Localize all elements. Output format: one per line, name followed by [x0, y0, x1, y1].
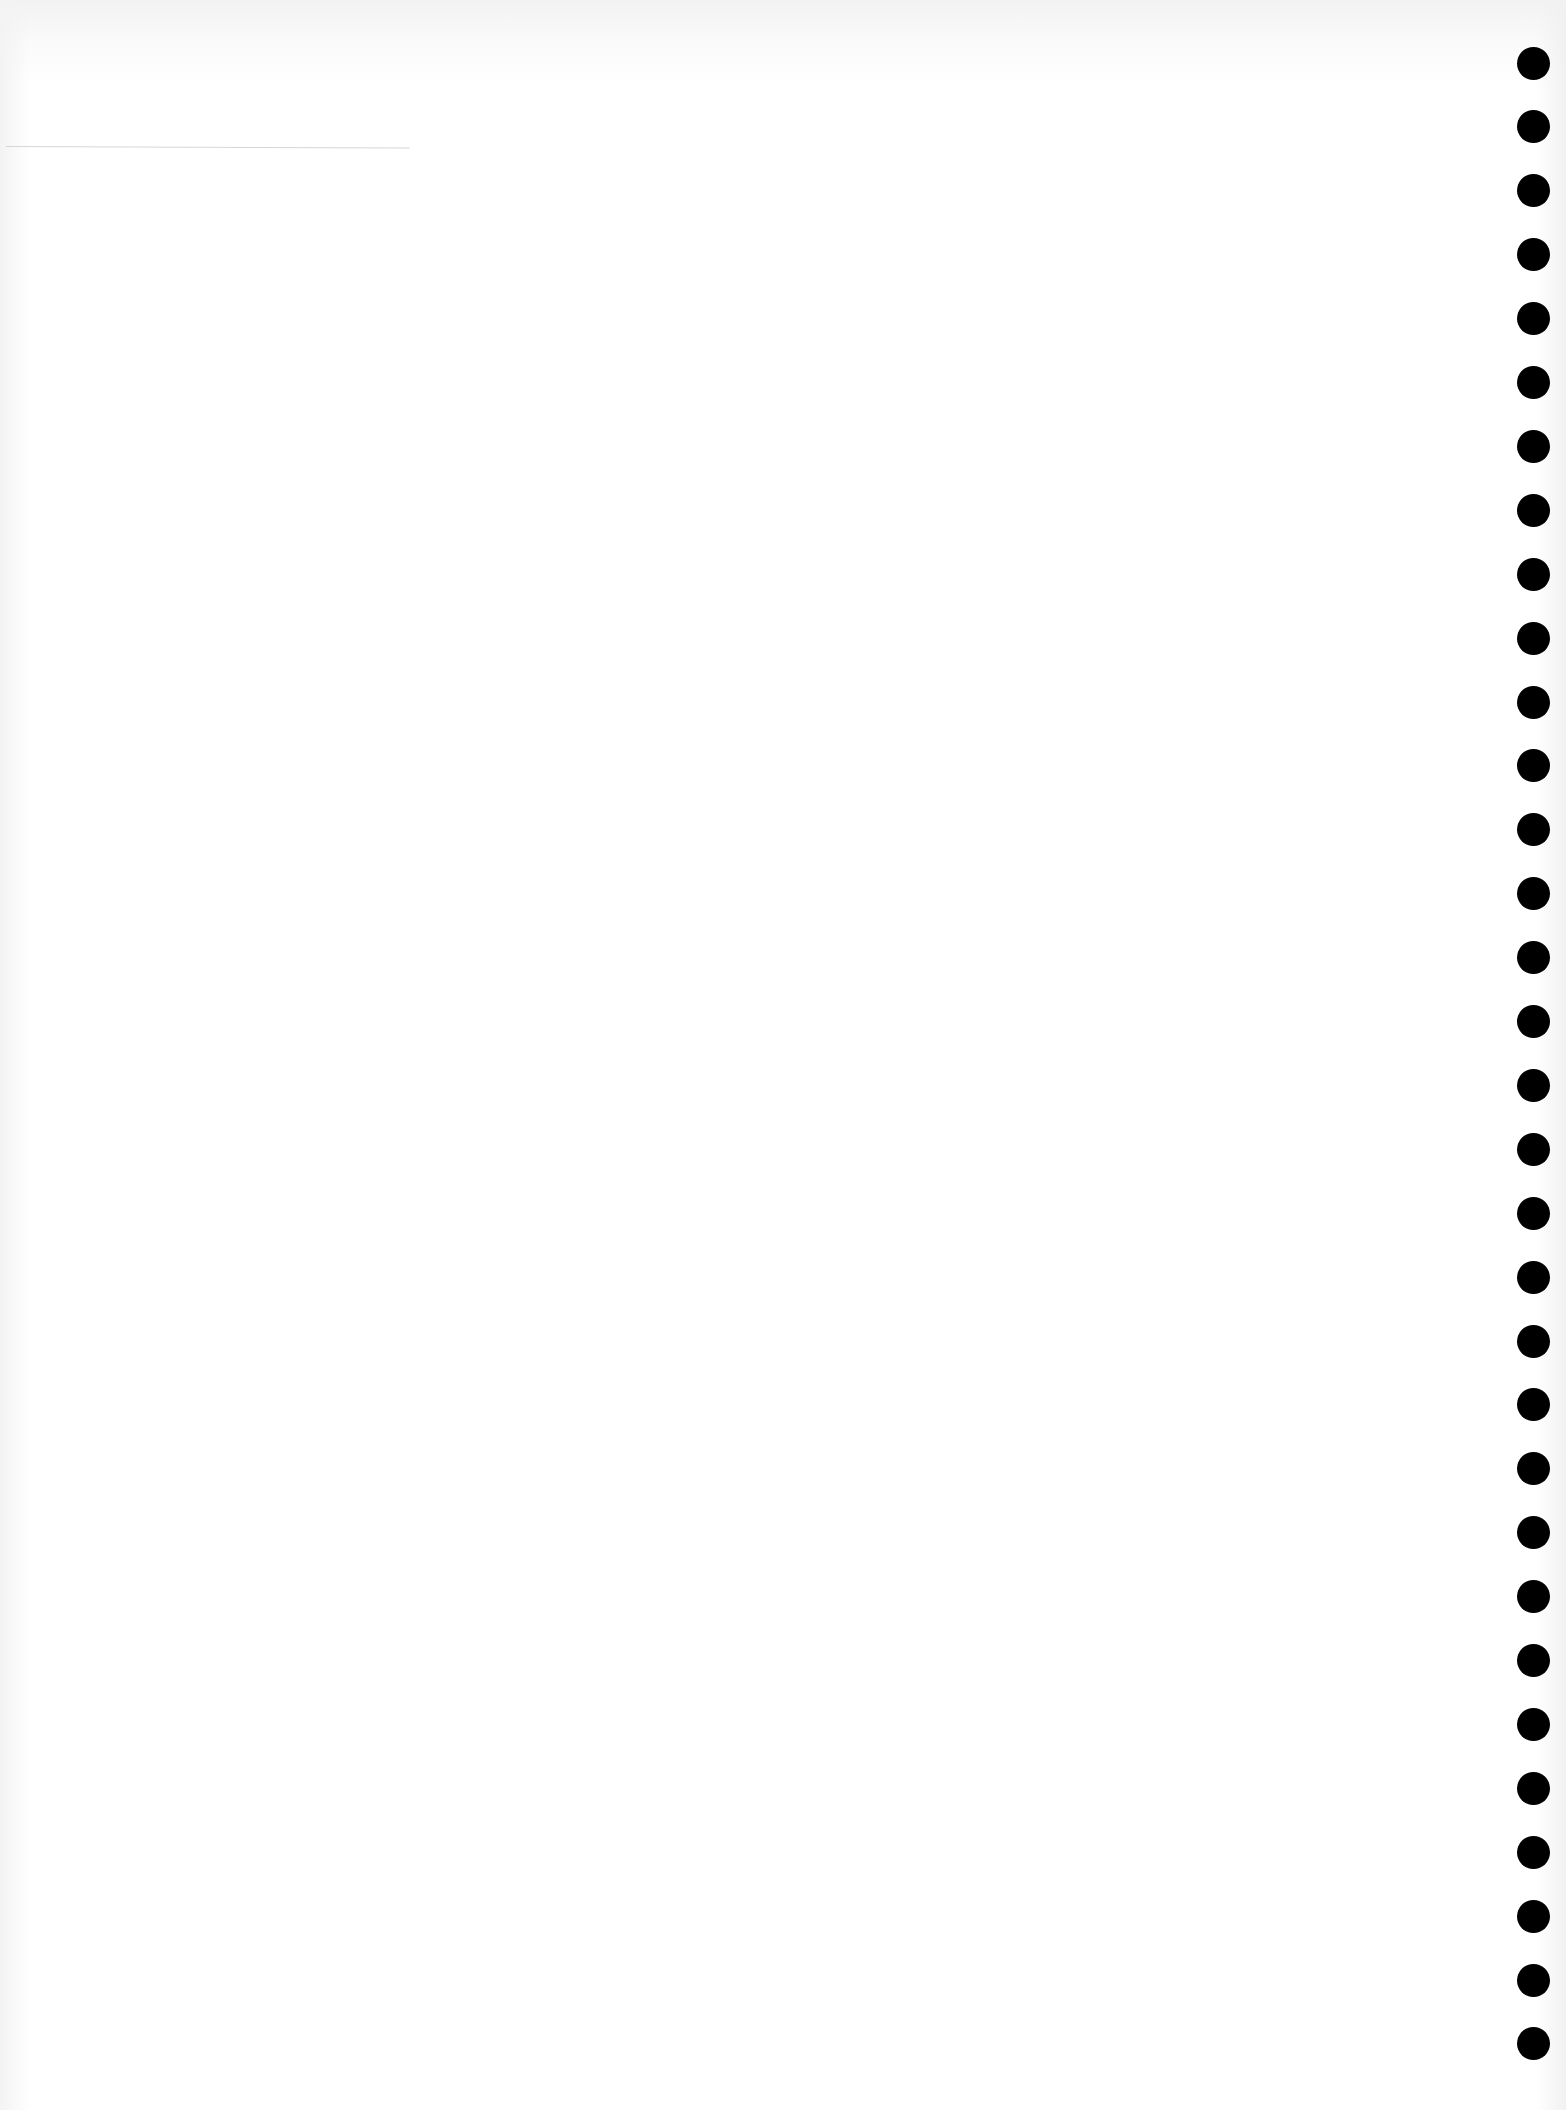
binder-hole [1517, 1197, 1550, 1230]
binder-hole [1517, 622, 1550, 655]
binder-hole [1517, 1580, 1550, 1613]
binder-hole [1517, 813, 1550, 846]
binder-hole [1517, 877, 1550, 910]
binder-hole [1517, 494, 1550, 527]
binder-hole [1517, 1261, 1550, 1294]
binder-hole [1517, 1836, 1550, 1869]
binder-hole [1517, 1325, 1550, 1358]
binder-hole [1517, 1069, 1550, 1102]
binder-hole [1517, 1388, 1550, 1421]
binder-hole [1517, 366, 1550, 399]
binder-hole [1517, 558, 1550, 591]
binder-hole [1517, 110, 1550, 143]
faint-horizontal-rule [6, 146, 410, 149]
binder-hole [1517, 2027, 1550, 2060]
binder-hole [1517, 1516, 1550, 1549]
binder-hole [1517, 1708, 1550, 1741]
binder-hole [1517, 174, 1550, 207]
binder-hole [1517, 1005, 1550, 1038]
binder-hole [1517, 302, 1550, 335]
binder-hole-column [1517, 0, 1553, 2110]
binder-hole [1517, 1644, 1550, 1677]
binder-hole [1517, 1964, 1550, 1997]
binder-hole [1517, 749, 1550, 782]
page-edge-shadow-left [0, 0, 30, 2110]
binder-hole [1517, 430, 1550, 463]
blank-scanned-page [0, 0, 1566, 2110]
binder-hole [1517, 238, 1550, 271]
binder-hole [1517, 941, 1550, 974]
binder-hole [1517, 1133, 1550, 1166]
binder-hole [1517, 1900, 1550, 1933]
binder-hole [1517, 1772, 1550, 1805]
binder-hole [1517, 686, 1550, 719]
binder-hole [1517, 47, 1550, 80]
binder-hole [1517, 1452, 1550, 1485]
